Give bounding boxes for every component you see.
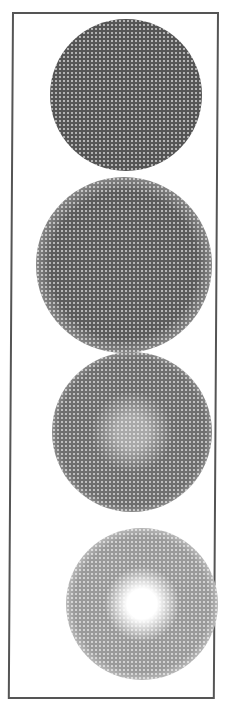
spot-3: [52, 352, 212, 512]
spot-2: [36, 177, 212, 353]
spot-4: [66, 528, 218, 680]
spot-1: [50, 19, 202, 171]
